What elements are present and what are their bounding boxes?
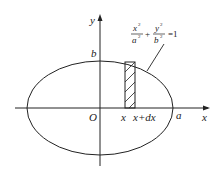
ellipse-equation: x 2 a 2 + y 2 b 2 =1 [131, 22, 178, 45]
b-label: b [91, 47, 97, 59]
strip-right-label: x+dx [132, 111, 156, 123]
strip-left-label: x [120, 111, 126, 123]
svg-text:2: 2 [138, 34, 141, 39]
svg-text:2: 2 [160, 22, 163, 27]
svg-text:y: y [154, 23, 159, 33]
svg-text:+: + [145, 29, 150, 39]
y-axis-arrow-icon [98, 14, 103, 21]
svg-text:x: x [132, 23, 137, 33]
svg-text:b: b [154, 35, 159, 45]
svg-text:=1: =1 [168, 29, 178, 39]
x-axis-arrow-icon [203, 106, 210, 111]
hatched-strip [125, 62, 135, 112]
origin-label: O [89, 111, 97, 123]
a-label: a [176, 109, 182, 121]
svg-text:2: 2 [138, 22, 141, 27]
svg-text:a: a [132, 35, 137, 45]
y-axis-label: y [89, 14, 95, 26]
ellipse-area-diagram: y x O b a x x+dx x 2 a 2 + y 2 b 2 =1 [0, 0, 221, 182]
svg-text:2: 2 [160, 34, 163, 39]
x-axis-label: x [201, 111, 207, 123]
equation-leader-line [147, 44, 164, 71]
